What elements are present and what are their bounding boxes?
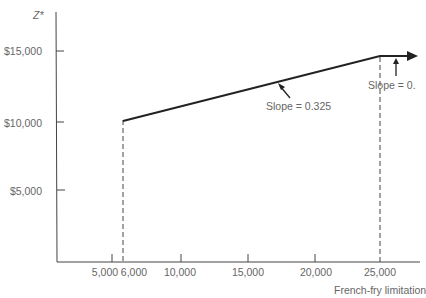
arrowhead-right-icon [407, 51, 418, 61]
x-tick-label-5000: 5,000 [92, 266, 118, 278]
y-axis-label: Z* [32, 9, 44, 21]
y-axis [56, 12, 57, 262]
x-axis-label: French-fry limitation [334, 284, 426, 296]
slope1-annotation: Slope = 0.325 [266, 100, 331, 112]
x-tick-label-25000: 25,000 [364, 266, 396, 278]
y-tick-label-15000: $15,000 [4, 45, 42, 57]
x-tick-label-20000: 20,000 [300, 266, 332, 278]
chart: Z* $15,000 $10,000 $5,000 5,000 6,000 10… [0, 0, 426, 298]
slope2-annotation: Slope = 0. [368, 79, 416, 91]
x-tick-label-15000: 15,000 [232, 266, 264, 278]
y-tick-label-10000: $10,000 [4, 117, 42, 129]
arrowhead-icon [278, 83, 285, 90]
x-tick-label-6000: 6,000 [121, 266, 147, 278]
z-star-line [123, 56, 407, 121]
y-tick-label-5000: $5,000 [10, 185, 42, 197]
x-tick-label-10000: 10,000 [164, 266, 196, 278]
arrowhead-icon [393, 58, 399, 64]
